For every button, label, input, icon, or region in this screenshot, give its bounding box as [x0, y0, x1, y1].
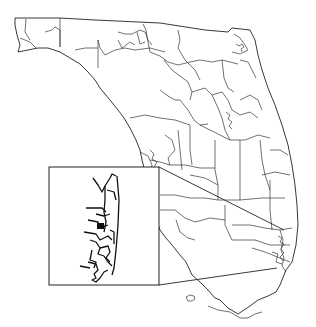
dry-tortugas-island	[186, 295, 195, 301]
inset-map	[49, 167, 159, 285]
florida-district-map	[0, 0, 316, 327]
